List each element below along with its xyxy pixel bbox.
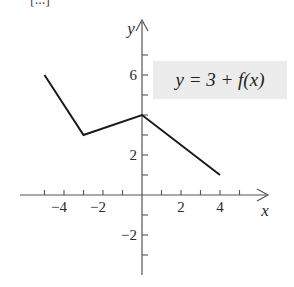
y-tick-label: 6 bbox=[130, 67, 138, 83]
y-axis-label: y bbox=[125, 19, 135, 38]
x-tick-label: 2 bbox=[177, 199, 185, 215]
y-tick-label: 2 bbox=[130, 147, 138, 163]
equation-label: y = 3 + f(x) bbox=[153, 61, 287, 99]
equation-label-box: y = 3 + f(x) bbox=[153, 61, 287, 99]
x-tick-label: 4 bbox=[216, 199, 224, 215]
y-axis: 6 2 −2 y bbox=[121, 19, 148, 275]
x-axis-label: x bbox=[260, 201, 269, 220]
graph: −4 −2 2 4 x 6 2 −2 y bbox=[0, 0, 294, 287]
x-tick-label: −4 bbox=[51, 199, 67, 215]
x-tick-label: −2 bbox=[90, 199, 106, 215]
y-tick-label: −2 bbox=[121, 227, 137, 243]
